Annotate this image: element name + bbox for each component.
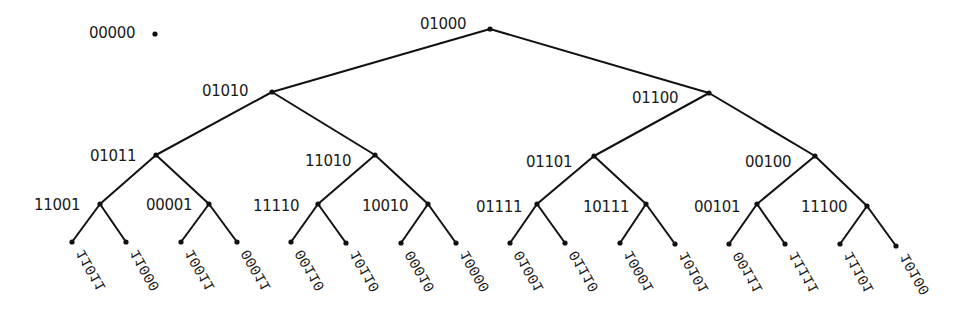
internal-node-label: 11100 — [801, 200, 847, 215]
leaf-node-dot — [69, 239, 74, 244]
internal-node-label: 01000 — [420, 17, 466, 32]
internal-node-label: 11010 — [305, 154, 351, 169]
internal-node-dot — [269, 89, 274, 94]
internal-node-label: 01100 — [632, 91, 678, 106]
leaf-node-dot — [453, 240, 458, 245]
internal-node-dot — [425, 201, 430, 206]
leaf-edge — [867, 206, 896, 246]
leaf-node-dot — [507, 240, 512, 245]
leaf-edge — [318, 204, 346, 243]
tree-edge — [272, 29, 490, 92]
leaf-node-dot — [893, 243, 898, 248]
tree-edge — [594, 156, 646, 204]
leaf-node-dot — [617, 240, 622, 245]
leaf-edge — [646, 204, 675, 244]
internal-node-dot — [706, 90, 711, 95]
tree-edge — [156, 92, 272, 155]
internal-node-label: 01010 — [202, 84, 248, 99]
internal-node-dot — [534, 201, 539, 206]
internal-node-dot — [864, 203, 869, 208]
internal-node-dot — [206, 201, 211, 206]
leaf-edge — [100, 204, 126, 242]
internal-node-label: 10010 — [362, 199, 408, 214]
internal-node-label: 11001 — [34, 198, 80, 213]
leaf-edge — [537, 204, 565, 243]
internal-node-label: 00101 — [694, 200, 740, 215]
leaf-node-dot — [726, 241, 731, 246]
internal-node-dot — [591, 153, 596, 158]
leaf-node-dot — [782, 241, 787, 246]
internal-node-dot — [372, 152, 377, 157]
tree-edge — [490, 29, 709, 93]
internal-node-label: 01011 — [90, 149, 136, 164]
leaf-node-dot — [343, 240, 348, 245]
isolated-node-dot — [152, 31, 157, 36]
leaf-edge — [757, 204, 785, 244]
tree-edge — [709, 93, 815, 156]
leaf-node-dot — [398, 240, 403, 245]
isolated-node-label: 00000 — [89, 26, 135, 41]
leaf-node-dot — [837, 241, 842, 246]
internal-node-dot — [812, 153, 817, 158]
leaf-node-dot — [562, 240, 567, 245]
leaf-node-dot — [672, 241, 677, 246]
internal-node-label: 01111 — [476, 200, 522, 215]
leaf-edge — [428, 204, 456, 243]
internal-node-label: 11110 — [253, 199, 299, 214]
internal-node-dot — [754, 201, 759, 206]
internal-node-dot — [153, 152, 158, 157]
internal-node-dot — [643, 201, 648, 206]
internal-node-dot — [487, 26, 492, 31]
internal-node-label: 10111 — [583, 200, 629, 215]
internal-node-label: 01101 — [526, 155, 572, 170]
leaf-node-dot — [178, 239, 183, 244]
leaf-node-dot — [234, 239, 239, 244]
internal-node-dot — [97, 201, 102, 206]
internal-node-label: 00001 — [146, 198, 192, 213]
internal-node-label: 00100 — [745, 155, 791, 170]
leaf-edge — [209, 204, 237, 242]
leaf-node-dot — [123, 239, 128, 244]
tree-edge — [272, 92, 375, 155]
internal-node-dot — [315, 201, 320, 206]
leaf-node-dot — [288, 239, 293, 244]
